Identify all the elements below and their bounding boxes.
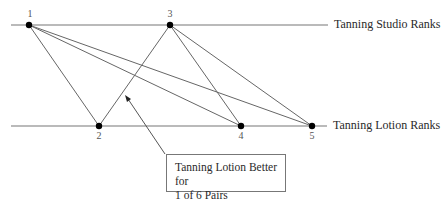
rank-dot-4 (238, 123, 244, 129)
callout-arrowhead-icon (125, 95, 131, 102)
lotion-axis-label: Tanning Lotion Ranks (333, 118, 440, 133)
rank-label-4: 4 (239, 130, 244, 141)
callout-box: Tanning Lotion Better for 1 of 6 Pairs (166, 154, 286, 192)
connection-3-5 (170, 25, 312, 126)
callout-line-1: Tanning Lotion Better for (175, 160, 285, 188)
callout-line-2: 1 of 6 Pairs (175, 188, 285, 202)
rank-dot-5 (309, 123, 315, 129)
rank-dot-3 (167, 22, 173, 28)
rank-dot-2 (96, 123, 102, 129)
connection-1-2 (29, 25, 99, 126)
rank-label-3: 3 (168, 8, 173, 19)
connection-lines (29, 25, 312, 126)
connection-3-2 (99, 25, 170, 126)
rank-label-5: 5 (310, 130, 315, 141)
rank-label-2: 2 (97, 130, 102, 141)
rank-label-1: 1 (28, 8, 33, 19)
studio-axis-label: Tanning Studio Ranks (334, 17, 441, 32)
connection-1-5 (29, 25, 312, 126)
connection-3-4 (170, 25, 241, 126)
rank-dot-1 (26, 22, 32, 28)
